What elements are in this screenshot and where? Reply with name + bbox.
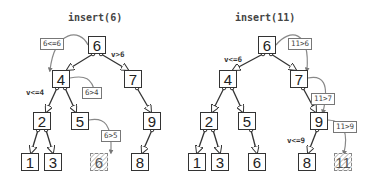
panel-title-insert-11: insert(11) <box>235 12 295 23</box>
comparison-label: 6<=6 <box>40 38 64 50</box>
comparison-label: 6>5 <box>101 130 121 142</box>
tree-node: 9 <box>143 112 161 130</box>
new-node: 6 <box>90 153 108 171</box>
condition-label: v<=9 <box>287 136 305 145</box>
tree-node: 2 <box>200 112 218 130</box>
comparison-label: 11>6 <box>288 38 312 50</box>
new-node: 11 <box>334 153 352 171</box>
condition-label: v<=6 <box>224 55 242 64</box>
tree-node: 5 <box>71 112 89 130</box>
comparison-label: 11>9 <box>333 121 357 133</box>
tree-node: 8 <box>131 153 149 171</box>
condition-label: v<=4 <box>26 88 44 97</box>
tree-node: 1 <box>21 153 39 171</box>
tree-node: 2 <box>33 112 51 130</box>
tree-node: 5 <box>238 112 256 130</box>
tree-node: 7 <box>290 70 308 88</box>
tree-node: 6 <box>248 153 266 171</box>
tree-node: 9 <box>310 112 328 130</box>
tree-node: 4 <box>219 70 237 88</box>
tree-node: 6 <box>258 36 276 54</box>
condition-label: v>6 <box>111 50 125 59</box>
tree-node: 6 <box>88 36 106 54</box>
tree-node: 3 <box>44 153 62 171</box>
panel-title-insert-6: insert(6) <box>68 12 122 23</box>
tree-node: 3 <box>211 153 229 171</box>
tree-node: 1 <box>188 153 206 171</box>
tree-node: 4 <box>52 70 70 88</box>
tree-node: 7 <box>124 70 142 88</box>
comparison-label: 11>7 <box>311 93 335 105</box>
tree-node: 8 <box>298 153 316 171</box>
comparison-label: 6>4 <box>82 87 102 99</box>
